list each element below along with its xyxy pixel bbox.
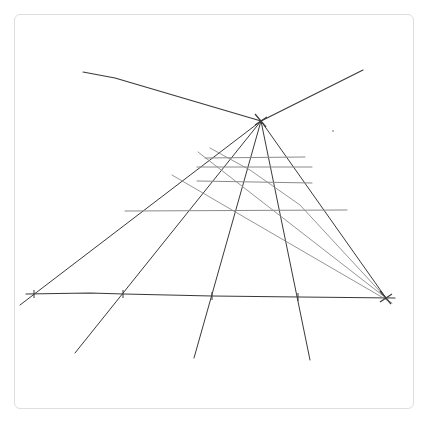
cross-vp-top	[255, 114, 266, 127]
vanishing-rays	[20, 121, 386, 360]
ray-5	[261, 121, 386, 298]
h-1	[205, 157, 305, 158]
ray-1	[20, 121, 261, 305]
diag-3	[210, 148, 386, 298]
h-3	[197, 181, 312, 183]
perspective-sketch	[0, 0, 429, 424]
ray-2	[75, 121, 261, 353]
ground-line	[26, 293, 395, 298]
horizon-lines	[83, 70, 363, 121]
diag-1	[172, 175, 392, 303]
horizontal-guides	[125, 157, 347, 211]
horizon-left	[83, 72, 261, 121]
tick-marks	[34, 114, 392, 304]
horizon-right	[261, 70, 363, 121]
diag-2	[198, 152, 386, 298]
cross-vp-top	[255, 117, 267, 125]
ground-line	[26, 293, 395, 298]
stray-dot	[332, 130, 334, 132]
h-4	[125, 210, 347, 211]
